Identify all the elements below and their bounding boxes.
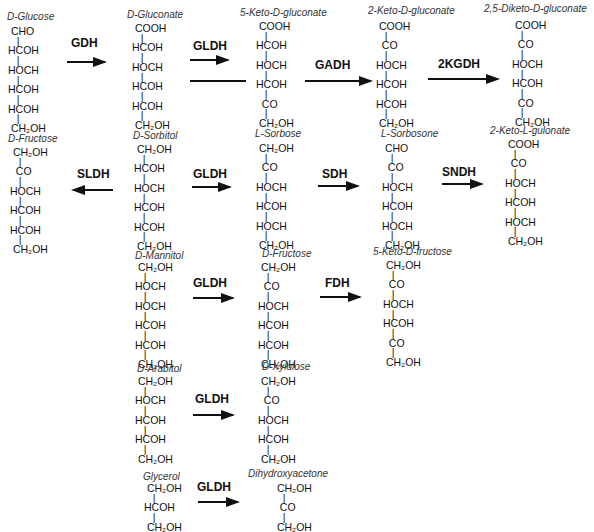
compound-name: D-Xylulose [262,361,310,372]
structural-formula: CH₂OH | HOCH | HOCH | HCOH | HCOH | CH₂O… [135,263,173,370]
branch-line [190,80,246,82]
structural-formula: CH₂OH | CO | HOCH | HCOH | HCOH | CH₂OH [10,148,48,255]
structural-formula: CH₂OH | HCOH | HOCH | HCOH | HCOH | CH₂O… [134,145,172,252]
compound-name: 5-Keto-D-gluconate [240,7,327,18]
compound-name: D-Fructose [262,248,311,259]
structural-formula: CH₂OH | CO | CH₂OH [274,484,312,532]
compound-name: D-Arabitol [137,363,181,374]
compound-name: Glycerol [143,471,180,482]
compound-name: 2-Keto-D-gluconate [368,5,455,16]
enzyme-label-gadh: GADH [315,58,350,72]
compound-name: 2-Keto-L-gulonate [490,125,570,136]
compound-name: D-Gluconate [127,9,183,20]
compound-name: D-Mannitol [135,250,183,261]
reaction-arrow [67,61,105,63]
enzyme-label-gdh: GDH [71,36,98,50]
structural-formula: CHO | HCOH | HOCH | HCOH | HCOH | CH₂OH [8,27,46,134]
structural-formula: CH₂OH | HCOH | CH₂OH [144,484,182,532]
enzyme-label-sndh: SNDH [442,165,476,179]
compound-name: L-Sorbose [255,128,301,139]
compound-name: Dihydroxyacetone [248,468,328,479]
structural-formula: COOH | CO | HOCH | HCOH | CO | CH₂OH [512,21,550,128]
enzyme-label-gldh: GLDH [193,39,227,53]
reaction-arrow [305,80,371,82]
structural-formula: COOH | CO | HOCH | HCOH | HCOH | CH₂OH [376,22,414,129]
reaction-arrow [442,183,482,185]
reaction-arrow [190,59,228,61]
structural-formula: CH₂OH | CO | HOCH | HCOH | HCOH | CH₂OH [258,263,296,370]
reaction-arrow [192,186,230,188]
reaction-arrow [318,185,358,187]
compound-name: D-Fructose [8,133,57,144]
reaction-arrow [320,296,360,298]
structural-formula: COOH | HCOH | HOCH | HCOH | CO | CH₂OH [256,22,294,129]
enzyme-label-sldh: SLDH [77,167,110,181]
reaction-arrow [198,501,238,503]
enzyme-label-sdh: SDH [322,167,347,181]
compound-name: 2,5-Diketo-D-gluconate [484,3,587,14]
reaction-arrow [428,78,498,80]
structural-formula: CHO | CO | HOCH | HCOH | HOCH | CH₂OH [382,144,420,251]
structural-formula: CH₂OH | CO | HOCH | HCOH | HOCH | CH₂OH [256,144,294,251]
enzyme-label-gldh: GLDH [193,167,227,181]
compound-name: D-Glucose [7,11,54,22]
reaction-arrow [193,414,233,416]
enzyme-label-gldh: GLDH [195,392,229,406]
enzyme-label-gldh: GLDH [197,480,231,494]
reaction-arrow [193,297,233,299]
enzyme-label-fdh: FDH [325,276,350,290]
structural-formula: CH₂OH | CO | HOCH | HCOH | CH₂OH [258,377,296,464]
compound-name: D-Sorbitol [133,130,177,141]
compound-name: L-Sorbosone [381,128,438,139]
structural-formula: COOH | HCOH | HOCH | HCOH | HCOH | CH₂OH [132,24,170,131]
compound-name: 5-Keto-D-fructose [373,246,452,257]
reaction-arrow [73,189,113,191]
structural-formula: COOH | CO | HOCH | HCOH | HOCH | CH₂OH [505,140,543,247]
structural-formula: CH₂OH | HOCH | HCOH | HCOH | CH₂OH [135,377,173,464]
enzyme-label-2kgdh: 2KGDH [438,57,480,71]
enzyme-label-gldh: GLDH [193,276,227,290]
structural-formula: CH₂OH | CO | HOCH | HCOH | CO | CH₂OH [383,261,421,368]
